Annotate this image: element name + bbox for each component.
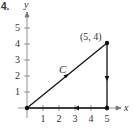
arrow-down-icon <box>105 76 110 81</box>
y-tick-label: 2 <box>15 71 20 81</box>
y-tick-label: 5 <box>15 23 20 33</box>
x-tick-label: 4 <box>89 114 94 124</box>
curve-label-c: C <box>59 64 66 75</box>
point-annotation-5-4: (5, 4) <box>80 32 102 42</box>
x-tick-label: 5 <box>105 114 110 124</box>
y-tick-label: 3 <box>15 55 20 65</box>
direction-arrow-icons <box>64 74 110 110</box>
x-tick-label: 3 <box>73 114 78 124</box>
x-tick-label: 2 <box>57 114 62 124</box>
y-tick-label: 4 <box>15 39 20 49</box>
x-axis-label: x <box>124 103 128 113</box>
y-tick-label: 1 <box>15 87 20 97</box>
line-integral-path-chart <box>0 0 133 131</box>
x-tick-label: 1 <box>41 114 46 124</box>
y-axis-label: y <box>24 0 28 10</box>
